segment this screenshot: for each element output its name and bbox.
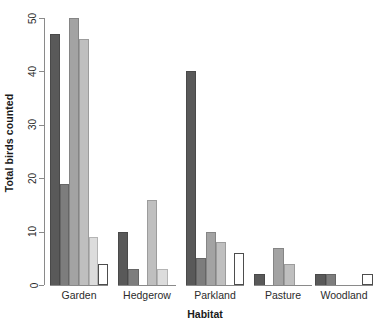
bar-group-baseline: [50, 285, 108, 286]
bar-hedgerow-series-2: [128, 269, 138, 285]
bar-group-bars: [118, 18, 176, 285]
y-tick-mark-50: [39, 18, 44, 19]
bar-group-baseline: [118, 285, 176, 286]
bar-garden-series-4: [79, 39, 89, 285]
x-tick-label-hedgerow: Hedgerow: [123, 289, 171, 301]
y-tick-mark-30: [39, 125, 44, 126]
y-tick-label-30-text: 30: [27, 119, 38, 130]
bar-garden-series-3: [69, 18, 79, 285]
bar-group-bars: [50, 18, 108, 285]
bar-pasture-series-3: [273, 248, 284, 285]
x-tick-label-parkland: Parkland: [194, 289, 235, 301]
bar-parkland-series-6: [234, 253, 244, 285]
bar-parkland-series-2: [196, 258, 206, 285]
bar-group-baseline: [186, 285, 244, 286]
x-tick-label-pasture: Pasture: [265, 289, 301, 301]
bar-garden-series-1: [50, 34, 60, 285]
y-tick-mark-40: [39, 71, 44, 72]
x-tick-label-garden: Garden: [61, 289, 96, 301]
y-axis-tick-labels: 50 40 30 20 10 0: [18, 0, 40, 329]
bar-group-baseline: [254, 285, 312, 286]
plot-area: GardenHedgerowParklandPastureWoodland: [45, 18, 365, 285]
bar-garden-series-6: [98, 264, 108, 285]
x-tick-label-woodland: Woodland: [320, 289, 367, 301]
bar-parkland-series-1: [186, 71, 196, 285]
bar-group-woodland: Woodland: [315, 18, 373, 285]
bar-hedgerow-series-4: [147, 200, 157, 285]
y-tick-label-50: 50: [18, 11, 38, 25]
x-axis-title: Habitat: [45, 308, 365, 320]
y-tick-mark-0: [39, 285, 44, 286]
bar-hedgerow-series-1: [118, 232, 128, 285]
y-tick-label-10: 10: [18, 225, 38, 239]
bar-hedgerow-series-5: [157, 269, 167, 285]
y-tick-label-50-text: 50: [27, 12, 38, 23]
bar-group-parkland: Parkland: [186, 18, 244, 285]
y-tick-label-40-text: 40: [27, 66, 38, 77]
y-tick-label-40: 40: [18, 64, 38, 78]
y-tick-mark-20: [39, 178, 44, 179]
y-tick-mark-10: [39, 232, 44, 233]
bar-group-hedgerow: Hedgerow: [118, 18, 176, 285]
bar-group-bars: [254, 18, 312, 285]
y-axis-title: Total birds counted: [0, 0, 18, 285]
y-tick-label-0: 0: [18, 278, 38, 292]
bar-pasture-series-4: [284, 264, 295, 285]
bar-group-bars: [315, 18, 373, 285]
bar-garden-series-5: [89, 237, 99, 285]
y-tick-label-20: 20: [18, 171, 38, 185]
bar-woodland-series-2: [326, 274, 337, 285]
bar-garden-series-2: [60, 184, 70, 285]
bar-woodland-series-6: [362, 274, 373, 285]
bar-group-pasture: Pasture: [254, 18, 312, 285]
bar-parkland-series-4: [216, 242, 226, 285]
bar-pasture-series-1: [254, 274, 265, 285]
bar-group-bars: [186, 18, 244, 285]
bar-parkland-series-3: [206, 232, 216, 285]
bar-woodland-series-1: [315, 274, 326, 285]
y-tick-label-20-text: 20: [27, 173, 38, 184]
bar-group-garden: Garden: [50, 18, 108, 285]
y-axis-title-text: Total birds counted: [3, 93, 15, 192]
bar-group-baseline: [315, 285, 373, 286]
y-tick-label-10-text: 10: [27, 226, 38, 237]
y-tick-label-30: 30: [18, 118, 38, 132]
